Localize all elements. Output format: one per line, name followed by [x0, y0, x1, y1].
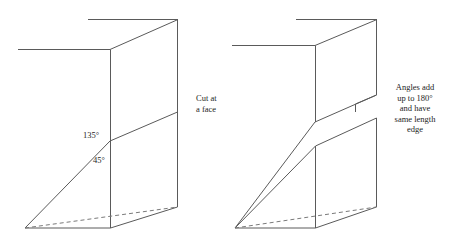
caption-angles-add-to-180: Angles add up to 180° and have same leng…: [386, 82, 444, 135]
angle-label-135: 135°: [83, 130, 99, 140]
right-hidden-bottom-edge: [235, 207, 377, 228]
right-top-face-diagonal: [315, 20, 377, 46]
left-cut-line-right-face: [110, 112, 178, 141]
right-notch-inner-diagonal: [356, 95, 377, 104]
right-panel-drawing: [232, 20, 377, 229]
right-lower-diagonal-to-apex: [235, 146, 316, 228]
left-bottom-right-edge: [111, 207, 178, 228]
right-upper-diagonal-to-apex: [235, 122, 315, 228]
caption-cut-at-a-face: Cut at a face: [196, 93, 217, 114]
left-top-face-diagonal: [110, 20, 178, 50]
right-bottom-right-edge: [316, 207, 377, 228]
angle-label-45: 45°: [93, 155, 105, 165]
mitre-cut-diagram: [0, 0, 449, 241]
left-hidden-bottom-edge: [25, 207, 178, 228]
left-panel-drawing: [18, 20, 178, 229]
right-lower-cut-line: [316, 118, 377, 146]
